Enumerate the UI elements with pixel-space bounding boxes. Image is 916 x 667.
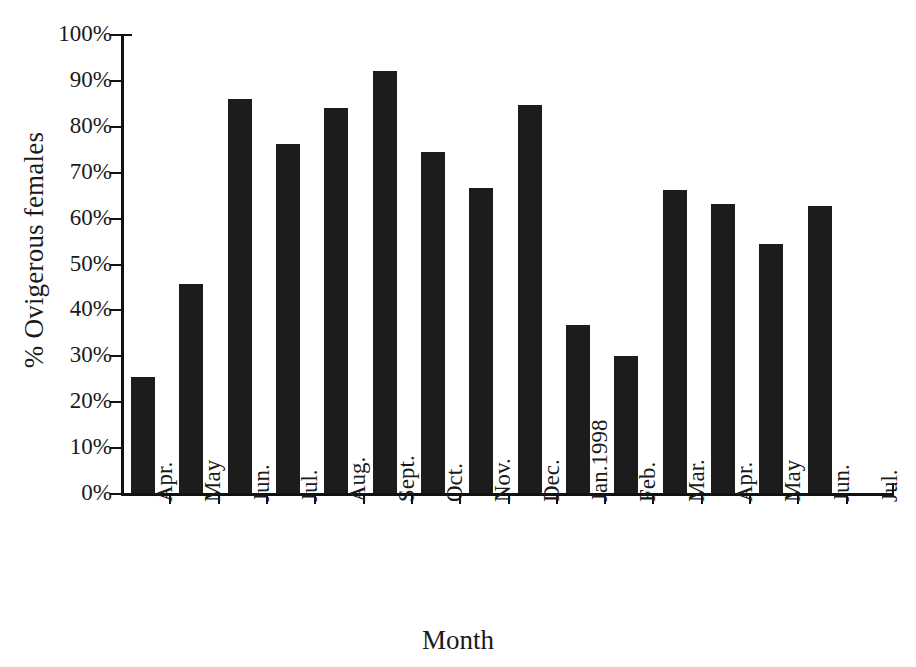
x-tick-label: Apr. <box>733 462 756 502</box>
x-tick-label: Nov. <box>491 458 514 502</box>
x-tick-label: Jan.1998 <box>588 420 611 502</box>
y-tick-mark <box>110 355 121 357</box>
x-axis-tick-labels: Apr.MayJun.Jul.Aug.Sept.Oct.Nov.Dec.Jan.… <box>121 496 894 616</box>
x-tick-label: Jun. <box>830 464 853 502</box>
bar <box>421 152 445 493</box>
y-tick-mark <box>110 401 121 403</box>
y-tick-mark <box>110 218 121 220</box>
x-tick-label: Jul. <box>298 469 321 502</box>
plot-area <box>121 34 894 493</box>
bar <box>759 244 783 493</box>
bar <box>373 71 397 493</box>
bar <box>228 99 252 493</box>
y-tick-label: 60% <box>48 206 112 229</box>
bar-chart-figure: % Ovigerous females 0%10%20%30%40%50%60%… <box>0 0 916 667</box>
y-axis-tick-labels: 0%10%20%30%40%50%60%70%80%90%100% <box>48 0 112 667</box>
bar <box>276 144 300 493</box>
bar <box>518 105 542 493</box>
x-tick-label: Sept. <box>395 455 418 502</box>
y-tick-mark <box>110 264 121 266</box>
x-tick-label: Apr. <box>153 462 176 502</box>
x-tick-label: May <box>201 460 224 502</box>
bar <box>663 190 687 493</box>
y-tick-mark <box>110 172 121 174</box>
y-tick-mark <box>110 126 121 128</box>
x-tick-label: Dec. <box>540 459 563 502</box>
y-tick-label: 70% <box>48 160 112 183</box>
x-tick-label: Mar. <box>685 459 708 502</box>
x-tick-label: Oct. <box>443 463 466 502</box>
x-tick-label: Jun. <box>250 464 273 502</box>
x-axis-title: Month <box>0 625 916 656</box>
bar <box>324 108 348 493</box>
x-tick-label: May <box>781 460 804 502</box>
y-tick-label: 10% <box>48 435 112 458</box>
bar <box>711 204 735 493</box>
y-tick-label: 40% <box>48 297 112 320</box>
y-tick-label: 50% <box>48 252 112 275</box>
y-tick-mark <box>110 309 121 311</box>
y-tick-label: 0% <box>48 481 112 504</box>
y-tick-label: 30% <box>48 343 112 366</box>
bar <box>808 206 832 493</box>
y-tick-label: 80% <box>48 114 112 137</box>
x-tick-label: Jul. <box>878 469 901 502</box>
y-axis-top-cap <box>121 34 132 36</box>
x-tick-label: Aug. <box>346 457 369 502</box>
y-axis-line <box>121 34 124 496</box>
y-tick-mark <box>110 447 121 449</box>
y-tick-label: 90% <box>48 68 112 91</box>
bar <box>469 188 493 493</box>
y-tick-label: 100% <box>48 22 112 45</box>
y-tick-mark <box>110 80 121 82</box>
y-tick-mark <box>110 493 121 495</box>
y-tick-mark <box>110 34 121 36</box>
x-tick-label: Feb. <box>636 462 659 502</box>
y-tick-label: 20% <box>48 389 112 412</box>
